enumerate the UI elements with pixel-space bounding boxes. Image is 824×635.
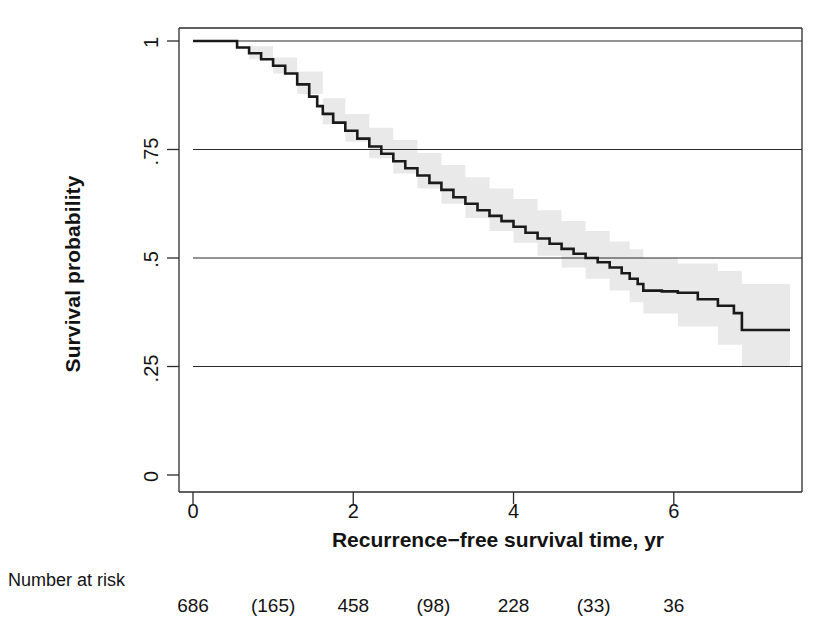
y-tick-text: .5	[140, 237, 163, 283]
y-tick-text: 0	[140, 454, 163, 500]
x-tick-label-2: 2	[333, 500, 373, 523]
y-tick-label-1: 1	[128, 31, 174, 51]
y-tick-text: 1	[140, 20, 163, 66]
y-tick-label-.5: .5	[128, 248, 174, 268]
number-at-risk-value: (165)	[228, 595, 318, 617]
number-at-risk-value: 686	[148, 595, 238, 617]
x-axis-title: Recurrence−free survival time, yr	[193, 528, 803, 552]
number-at-risk-value: (98)	[388, 595, 478, 617]
plot-frame	[179, 28, 802, 492]
number-at-risk-value: 228	[469, 595, 559, 617]
x-tick-label-0: 0	[173, 500, 213, 523]
y-axis-title: Survival probability	[61, 124, 85, 424]
y-tick-label-.25: .25	[128, 357, 174, 377]
y-tick-text: .25	[140, 345, 163, 391]
kaplan-meier-survival-figure: Survival probability Recurrence−free sur…	[0, 0, 824, 635]
number-at-risk-value: 458	[308, 595, 398, 617]
y-tick-text: .75	[140, 128, 163, 174]
x-tick-label-4: 4	[494, 500, 534, 523]
y-tick-label-0: 0	[128, 465, 174, 485]
number-at-risk-value: (33)	[549, 595, 639, 617]
number-at-risk-title: Number at risk	[8, 570, 125, 591]
x-tick-label-6: 6	[654, 500, 694, 523]
y-tick-label-.75: .75	[128, 140, 174, 160]
number-at-risk-value: 36	[629, 595, 719, 617]
confidence-interval-band	[193, 41, 790, 367]
